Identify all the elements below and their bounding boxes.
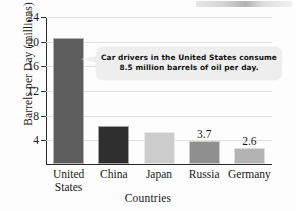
y-tick-label: 20	[28, 36, 40, 48]
y-tick-label: 4	[33, 134, 39, 146]
y-tick-mark	[41, 42, 46, 43]
bar-value-label: 3.7	[197, 128, 211, 140]
bar	[53, 38, 84, 164]
y-tick-label: 16	[28, 60, 40, 72]
y-tick-mark	[41, 66, 46, 67]
y-tick-label: 12	[28, 85, 40, 97]
bar-chart-figure: Barrels per Day (millions) Countries 481…	[0, 0, 296, 211]
callout-line-1: Car drivers in the United States consume	[100, 53, 278, 63]
callout-line-2: 8.5 million barrels of oil per day.	[100, 63, 278, 73]
plot-area: 4812162024 3.72.6 UnitedStatesChinaJapan…	[46, 17, 272, 165]
bar-value-label: 2.6	[242, 135, 256, 147]
gridline	[46, 17, 272, 18]
x-axis-title: Countries	[0, 192, 296, 204]
y-tick-label: 24	[28, 11, 40, 23]
bar: 3.7	[189, 141, 220, 164]
y-tick-mark	[41, 91, 46, 92]
y-tick-label: 8	[33, 110, 39, 122]
callout-annotation: Car drivers in the United States consume…	[96, 47, 282, 80]
y-tick-mark	[41, 140, 46, 141]
bar	[98, 126, 129, 164]
category-label: Germany	[222, 168, 277, 181]
y-tick-mark	[41, 17, 46, 18]
y-tick-mark	[41, 116, 46, 117]
bar	[144, 132, 175, 164]
bar: 2.6	[234, 148, 265, 164]
scan-artifact	[196, 1, 292, 7]
x-axis-line	[46, 164, 272, 165]
